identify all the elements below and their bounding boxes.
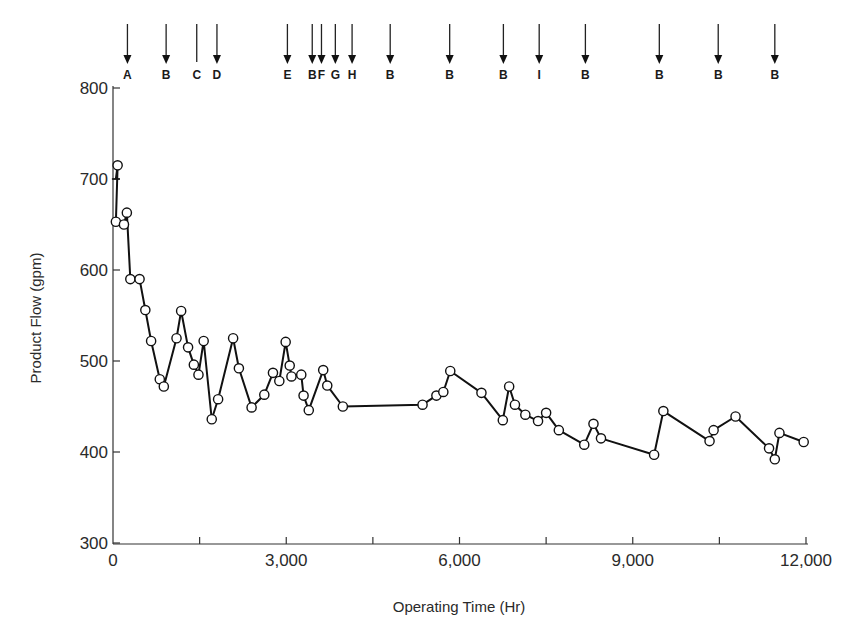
data-point	[147, 336, 156, 345]
data-point	[194, 370, 203, 379]
data-point	[299, 391, 308, 400]
event-label: B	[581, 68, 590, 82]
event-marker-d: D	[213, 24, 222, 82]
data-point	[234, 364, 243, 373]
data-point	[498, 416, 507, 425]
y-tick-label: 300	[80, 534, 108, 553]
event-label: B	[714, 68, 723, 82]
data-point	[542, 408, 551, 417]
data-point	[505, 382, 514, 391]
event-label: B	[655, 68, 664, 82]
event-marker-b: B	[162, 24, 171, 82]
data-point	[659, 406, 668, 415]
data-point	[177, 306, 186, 315]
event-label: B	[162, 68, 171, 82]
event-marker-b: B	[655, 24, 664, 82]
data-point	[287, 372, 296, 381]
data-point	[281, 337, 290, 346]
event-marker-b: B	[308, 24, 317, 82]
data-point	[650, 450, 659, 459]
data-point	[268, 368, 277, 377]
x-axis-ticks: 03,0006,0009,00012,000	[108, 537, 832, 570]
data-point	[135, 275, 144, 284]
axes: 300400500600700800 03,0006,0009,00012,00…	[80, 79, 832, 570]
event-marker-a: A	[123, 24, 132, 82]
data-point	[304, 406, 313, 415]
data-point	[141, 305, 150, 314]
event-label: I	[538, 68, 541, 82]
event-label: B	[770, 68, 779, 82]
event-marker-i: I	[535, 24, 543, 82]
event-markers: ABCDEBFGHBBBIBBBB	[123, 24, 779, 82]
x-tick-label: 6,000	[438, 551, 481, 570]
event-label: H	[348, 68, 357, 82]
data-point	[119, 220, 128, 229]
y-axis-ticks: 300400500600700800	[80, 79, 120, 553]
data-point	[589, 419, 598, 428]
data-point	[554, 426, 563, 435]
event-marker-g: G	[331, 24, 340, 82]
data-point	[775, 428, 784, 437]
data-point	[229, 334, 238, 343]
event-label: A	[123, 68, 132, 82]
data-point	[418, 400, 427, 409]
event-label: B	[445, 68, 454, 82]
event-marker-c: C	[192, 24, 201, 82]
event-marker-f: F	[317, 24, 325, 82]
y-tick-label: 600	[80, 261, 108, 280]
data-point	[159, 382, 168, 391]
data-point	[319, 366, 328, 375]
data-point	[521, 410, 530, 419]
event-label: C	[192, 68, 201, 82]
x-tick-label: 12,000	[780, 551, 832, 570]
x-tick-label: 9,000	[611, 551, 654, 570]
y-tick-label: 400	[80, 443, 108, 462]
event-label: B	[499, 68, 508, 82]
event-marker-b: B	[445, 24, 454, 82]
data-point	[323, 381, 332, 390]
event-label: B	[386, 68, 395, 82]
event-label: E	[283, 68, 291, 82]
y-tick-label: 500	[80, 352, 108, 371]
product-flow-chart: 300400500600700800 03,0006,0009,00012,00…	[0, 0, 857, 634]
data-point	[183, 343, 192, 352]
event-label: F	[318, 68, 325, 82]
data-point	[189, 360, 198, 369]
x-axis-title: Operating Time (Hr)	[393, 598, 526, 615]
data-point	[207, 415, 216, 424]
event-label: G	[331, 68, 340, 82]
data-point	[172, 334, 181, 343]
y-tick-label: 800	[80, 79, 108, 98]
data-point	[580, 440, 589, 449]
event-marker-h: H	[348, 24, 357, 82]
data-point	[477, 388, 486, 397]
data-point	[799, 437, 808, 446]
event-label: D	[213, 68, 222, 82]
event-marker-b: B	[714, 24, 723, 82]
data-point	[275, 376, 284, 385]
event-marker-b: B	[386, 24, 395, 82]
data-point	[596, 434, 605, 443]
data-point	[214, 395, 223, 404]
data-point	[709, 426, 718, 435]
data-point	[338, 402, 347, 411]
product-flow-line	[116, 165, 804, 459]
data-point	[533, 416, 542, 425]
data-point	[297, 370, 306, 379]
data-point	[446, 366, 455, 375]
x-tick-label: 3,000	[265, 551, 308, 570]
event-marker-b: B	[581, 24, 590, 82]
y-tick-label: 700	[80, 170, 108, 189]
event-marker-b: B	[770, 24, 779, 82]
data-point	[285, 361, 294, 370]
data-point	[705, 436, 714, 445]
data-point	[260, 390, 269, 399]
data-point	[122, 208, 131, 217]
data-point	[247, 403, 256, 412]
data-point	[126, 275, 135, 284]
data-point	[764, 444, 773, 453]
data-point	[113, 161, 122, 170]
data-point	[439, 387, 448, 396]
data-point	[731, 412, 740, 421]
event-marker-e: E	[283, 24, 291, 82]
